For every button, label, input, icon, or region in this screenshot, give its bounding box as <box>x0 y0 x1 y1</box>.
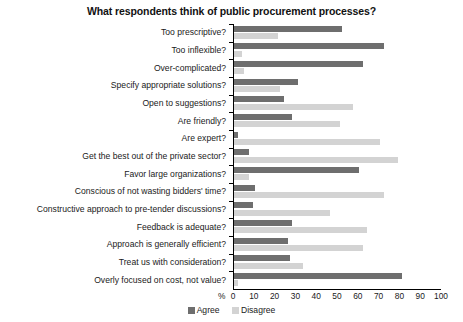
bar-agree <box>234 43 384 49</box>
disagree-swatch-icon <box>232 307 239 314</box>
y-tick-mark <box>229 59 233 60</box>
x-tick-label: 90 <box>410 291 430 301</box>
y-tick-mark <box>229 112 233 113</box>
category-label: Over-complicated? <box>4 63 226 73</box>
x-tick-label: 50 <box>327 291 347 301</box>
bar-disagree <box>234 68 244 74</box>
bar-disagree <box>234 227 367 233</box>
category-label: Too prescriptive? <box>4 27 226 37</box>
bar-agree <box>234 114 292 120</box>
bar-agree <box>234 149 249 155</box>
category-label: Specify appropriate solutions? <box>4 80 226 90</box>
bar-row <box>234 165 441 183</box>
bar-agree <box>234 96 284 102</box>
category-label: Get the best out of the private sector? <box>4 151 226 161</box>
bar-row <box>234 59 441 77</box>
bar-row <box>234 201 441 219</box>
category-label: Treat us with consideration? <box>4 257 226 267</box>
bar-agree <box>234 220 292 226</box>
x-tick-label: 30 <box>285 291 305 301</box>
bar-agree <box>234 26 342 32</box>
bar-disagree <box>234 280 238 286</box>
chart-legend: Agree Disagree <box>0 305 463 315</box>
y-tick-mark <box>229 271 233 272</box>
y-tick-mark <box>229 201 233 202</box>
category-label: Conscious of not wasting bidders' time? <box>4 186 226 196</box>
x-axis-line <box>233 289 441 290</box>
y-tick-mark <box>229 77 233 78</box>
bar-disagree <box>234 210 330 216</box>
bar-row <box>234 148 441 166</box>
category-label: Open to suggestions? <box>4 98 226 108</box>
bar-row <box>234 183 441 201</box>
chart-title: What respondents think of public procure… <box>0 5 463 17</box>
bar-disagree <box>234 104 353 110</box>
bar-disagree <box>234 174 249 180</box>
bar-disagree <box>234 139 380 145</box>
y-tick-mark <box>229 95 233 96</box>
y-tick-mark <box>229 42 233 43</box>
bar-agree <box>234 185 255 191</box>
bar-agree <box>234 238 288 244</box>
y-tick-mark <box>229 218 233 219</box>
x-tick-label: 10 <box>244 291 264 301</box>
category-label: Overly focused on cost, not value? <box>4 275 226 285</box>
bar-agree <box>234 61 363 67</box>
bar-row <box>234 42 441 60</box>
bar-row <box>234 218 441 236</box>
bar-row <box>234 271 441 289</box>
x-tick-label: 40 <box>306 291 326 301</box>
plot-area <box>233 24 441 289</box>
bar-disagree <box>234 51 242 57</box>
x-tick-label: 70 <box>369 291 389 301</box>
x-tick-label: 100 <box>431 291 451 301</box>
bar-disagree <box>234 33 278 39</box>
percent-axis-label: % <box>218 291 225 301</box>
bar-row <box>234 95 441 113</box>
bar-disagree <box>234 263 303 269</box>
x-tick-label: 80 <box>389 291 409 301</box>
category-label: Constructive approach to pre-tender disc… <box>4 204 226 214</box>
x-tick-label: 20 <box>265 291 285 301</box>
y-tick-mark <box>229 130 233 131</box>
bar-agree <box>234 132 238 138</box>
y-tick-mark <box>229 236 233 237</box>
bar-disagree <box>234 86 280 92</box>
bar-disagree <box>234 157 398 163</box>
bar-agree <box>234 255 290 261</box>
legend-item-disagree: Disagree <box>232 305 275 315</box>
category-label: Feedback is adequate? <box>4 222 226 232</box>
bar-row <box>234 130 441 148</box>
category-label: Favor large organizations? <box>4 169 226 179</box>
bar-disagree <box>234 192 384 198</box>
legend-item-agree: Agree <box>188 305 220 315</box>
category-label: Approach is generally efficient? <box>4 239 226 249</box>
y-tick-mark <box>229 148 233 149</box>
legend-label-disagree: Disagree <box>241 305 275 315</box>
x-tick-label: 60 <box>348 291 368 301</box>
category-label: Too inflexible? <box>4 45 226 55</box>
bar-disagree <box>234 121 340 127</box>
bar-disagree <box>234 245 363 251</box>
category-label: Are expert? <box>4 133 226 143</box>
y-tick-mark <box>229 254 233 255</box>
bar-agree <box>234 167 359 173</box>
bar-row <box>234 236 441 254</box>
y-tick-mark <box>229 183 233 184</box>
bar-row <box>234 254 441 272</box>
y-tick-mark <box>229 24 233 25</box>
bar-row <box>234 77 441 95</box>
bar-agree <box>234 202 253 208</box>
bar-agree <box>234 79 298 85</box>
agree-swatch-icon <box>188 307 195 314</box>
legend-label-agree: Agree <box>197 305 220 315</box>
bar-chart-figure: What respondents think of public procure… <box>0 0 463 322</box>
bar-row <box>234 112 441 130</box>
bar-row <box>234 24 441 42</box>
bar-agree <box>234 273 402 279</box>
category-label: Are friendly? <box>4 116 226 126</box>
y-tick-mark <box>229 165 233 166</box>
x-tick-label: 0 <box>223 291 243 301</box>
